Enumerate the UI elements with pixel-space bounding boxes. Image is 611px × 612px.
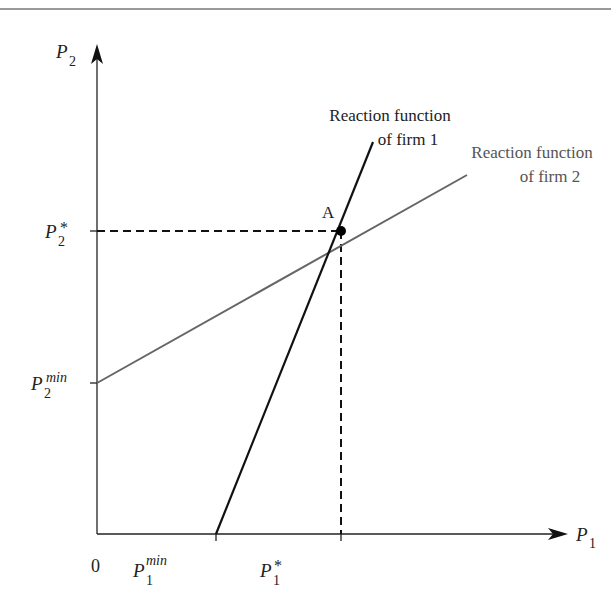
p2-star-sub: 2 [58,234,65,249]
firm1-reaction-line [216,142,373,534]
p1-star-label: P [259,560,272,581]
firm1-label-line1: Reaction function [329,106,451,125]
y-axis-label-sub: 2 [69,54,76,69]
y-axis-label: P [55,41,68,62]
diagram-canvas: A Reaction function of firm 1 Reaction f… [0,0,611,612]
firm2-label-line2: of firm 2 [520,167,580,186]
p2-star-sup: * [60,219,68,236]
p2-star-label: P [44,221,57,242]
firm1-label-line2: of firm 1 [378,130,438,149]
p1-min-sub: 1 [146,573,153,588]
firm2-label-line1: Reaction function [471,143,593,162]
reaction-function-diagram: A Reaction function of firm 1 Reaction f… [0,0,611,612]
p2-min-label: P [30,373,43,394]
equilibrium-label: A [322,203,335,222]
p2-min-sub: 2 [44,386,51,401]
p1-min-label: P [132,560,145,581]
equilibrium-point [336,226,346,236]
origin-label: 0 [91,556,100,576]
p2-min-sup: min [46,370,67,385]
x-axis-label-sub: 1 [589,536,596,551]
p1-min-sup: min [146,553,167,568]
p1-star-sup: * [274,557,282,574]
firm2-reaction-line [97,175,467,383]
p1-star-sub: 1 [273,573,280,588]
x-axis-label: P [575,524,588,545]
